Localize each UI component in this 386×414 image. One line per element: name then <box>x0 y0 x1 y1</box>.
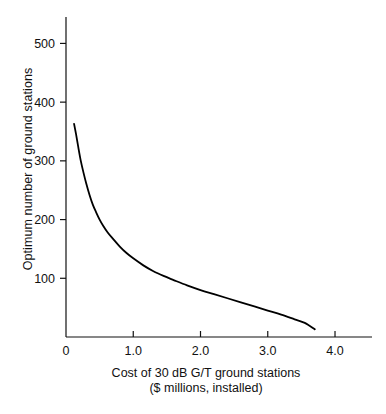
chart-figure: Optimum number of ground stations 100200… <box>0 0 386 414</box>
x-axis-label: Cost of 30 dB G/T ground stations ($ mil… <box>36 366 376 396</box>
y-axis-tick-labels: 100200300400500 <box>34 37 55 286</box>
x-axis-label-line2: ($ millions, installed) <box>36 381 376 396</box>
x-axis-ticks <box>133 331 335 337</box>
x-tick-label: 4.0 <box>326 344 343 358</box>
axis-lines <box>66 17 372 337</box>
x-axis-tick-labels: 01.02.03.04.0 <box>63 344 344 358</box>
y-tick-label: 300 <box>34 154 55 168</box>
x-tick-label: 2.0 <box>192 344 209 358</box>
x-tick-label: 1.0 <box>125 344 142 358</box>
x-tick-label: 3.0 <box>259 344 276 358</box>
y-tick-label: 100 <box>34 272 55 286</box>
y-tick-label: 400 <box>34 96 55 110</box>
y-tick-label: 500 <box>34 37 55 51</box>
x-tick-label: 0 <box>63 344 70 358</box>
x-axis-label-line1: Cost of 30 dB G/T ground stations <box>112 366 301 380</box>
y-axis-label: Optimum number of ground stations <box>21 29 35 309</box>
y-axis-ticks <box>60 43 66 278</box>
data-series-curve <box>74 124 315 330</box>
y-tick-label: 200 <box>34 213 55 227</box>
chart-plot-area: 100200300400500 01.02.03.04.0 <box>0 0 386 414</box>
